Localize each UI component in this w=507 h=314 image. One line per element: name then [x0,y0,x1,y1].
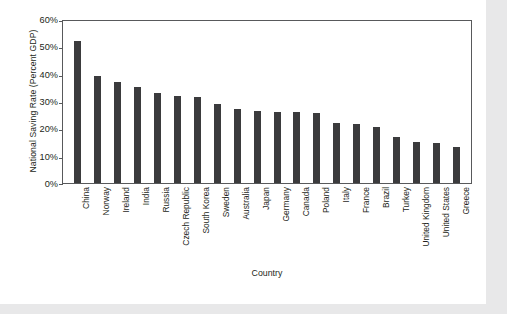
x-label-slot: Brazil [367,185,387,263]
bar-slot [406,21,426,183]
x-label-slot: Czech Republic [167,185,187,263]
x-label-slot: India [127,185,147,263]
x-label-slot: Russia [147,185,167,263]
bar-slot [168,21,188,183]
x-label-slot: United Kingdom [407,185,427,263]
x-label-slot: Norway [87,185,107,263]
y-axis-tick-label: 30% [22,97,58,107]
bar [333,123,340,183]
bar-slot [247,21,267,183]
bar [353,124,360,183]
x-label-slot: South Korea [187,185,207,263]
y-axis-tick-label: 60% [22,15,58,25]
bar-slot [207,21,227,183]
y-axis-tick-mark [59,76,63,77]
bar [413,142,420,183]
x-label-slot: Japan [247,185,267,263]
bar-slot [227,21,247,183]
plot-area [62,20,472,184]
bar-slot [148,21,168,183]
bar-slot [187,21,207,183]
x-label-slot: Germany [267,185,287,263]
bar [214,104,221,183]
bar-slot [287,21,307,183]
bar-slot [367,21,387,183]
bar [254,111,261,183]
x-label-slot: China [67,185,87,263]
y-axis-tick-label: 0% [22,179,58,189]
bar [114,82,121,183]
x-axis-tick-labels: ChinaNorwayIrelandIndiaRussiaCzech Repub… [62,185,472,263]
x-label-slot: Australia [227,185,247,263]
bar-slot [307,21,327,183]
bar [313,113,320,183]
x-label-slot: France [347,185,367,263]
y-axis-tick-label: 40% [22,70,58,80]
chart-figure: National Saving Rate (Percent GDP) 0%10%… [0,0,486,304]
bar [373,127,380,183]
y-axis-tick-mark [59,48,63,49]
y-axis-tick-mark [59,158,63,159]
y-axis-tick-mark [59,130,63,131]
bar-slot [128,21,148,183]
x-label-slot: United States [427,185,447,263]
bar [154,93,161,183]
bar [274,112,281,183]
y-axis-tick-mark [59,103,63,104]
bar-slot [327,21,347,183]
bar [194,97,201,183]
bar [174,96,181,183]
bar-slot [426,21,446,183]
bar [134,87,141,183]
x-label-slot: Canada [287,185,307,263]
bar-slot [446,21,466,183]
bar [293,112,300,183]
x-label-slot: Poland [307,185,327,263]
y-axis-tick-label: 20% [22,124,58,134]
y-axis-tick-label: 10% [22,152,58,162]
bar [453,147,460,183]
x-axis-tick-label: Greece [461,187,471,214]
bar-slot [347,21,367,183]
x-label-slot: Greece [447,185,467,263]
y-axis-tick-label: 50% [22,42,58,52]
bar [94,76,101,183]
bar-series [63,21,471,183]
x-label-slot: Turkey [387,185,407,263]
y-axis-tick-mark [59,21,63,22]
bar [433,143,440,183]
y-axis-tick-labels: 0%10%20%30%40%50%60% [22,19,58,185]
x-label-slot: Italy [327,185,347,263]
bar [234,109,241,183]
bar-slot [387,21,407,183]
bar-slot [88,21,108,183]
x-axis-title: Country [62,268,472,278]
bar-slot [108,21,128,183]
bar [393,137,400,183]
x-label-slot: Ireland [107,185,127,263]
bar-slot [68,21,88,183]
x-label-slot: Sweden [207,185,227,263]
bar-slot [267,21,287,183]
bar [74,41,81,183]
